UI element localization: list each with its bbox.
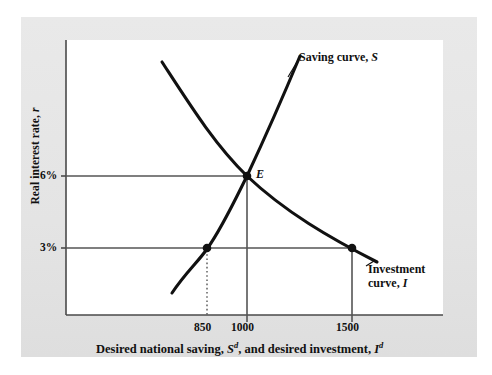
saving-at-3pct-marker [203, 244, 212, 253]
y-tick-label-3pct: 3% [40, 241, 57, 253]
x-axis-title-symbol-i-sup: d [379, 340, 383, 350]
chart-svg [0, 0, 492, 375]
saving-curve-label-symbol: S [371, 50, 378, 64]
x-tick-label-850: 850 [194, 321, 211, 333]
investment-curve-label-line1: Investment [368, 262, 425, 276]
x-axis-title-symbol-s: S [227, 342, 234, 356]
saving-curve-label-text: Saving curve, [299, 50, 371, 64]
x-tick-label-1000: 1000 [231, 321, 254, 333]
x-axis-title-part2: , and desired investment, [238, 342, 374, 356]
saving-curve [172, 56, 300, 293]
x-tick-label-1500: 1500 [336, 321, 359, 333]
investment-curve [162, 62, 377, 262]
x-axis-title-part1: Desired national saving, [96, 342, 227, 356]
figure-root: Real interest rate, r Desired national s… [0, 0, 492, 375]
equilibrium-point-label: E [256, 167, 264, 182]
saving-curve-label: Saving curve, S [299, 50, 378, 64]
investment-at-3pct-marker [348, 244, 357, 253]
y-axis-title: Real interest rate, r [29, 81, 41, 231]
y-axis-title-text: Real interest rate, [29, 112, 41, 204]
investment-curve-label-line2: curve, [368, 276, 403, 290]
investment-curve-label: Investmentcurve, I [368, 262, 425, 290]
x-axis-title: Desired national saving, Sd, and desired… [96, 340, 383, 357]
investment-curve-label-symbol: I [403, 276, 408, 290]
y-tick-label-6pct: 6% [40, 169, 57, 181]
equilibrium-point-marker [243, 172, 252, 181]
y-axis-title-symbol: r [29, 107, 41, 112]
